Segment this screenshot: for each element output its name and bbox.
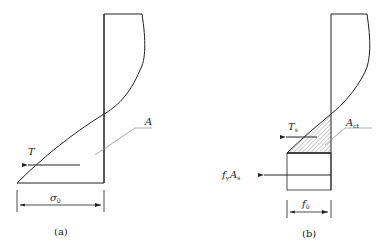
dim-arrowhead-right-b (322, 210, 328, 214)
as-symbol: A (229, 169, 237, 180)
stress-profile-a (17, 14, 145, 183)
tension-label-a: T (28, 146, 36, 157)
as-subscript: s (237, 174, 240, 181)
f0-subscript: 0 (306, 203, 310, 210)
area-leader-b (325, 128, 372, 145)
caption-b: (b) (302, 228, 316, 239)
act-symbol: A (345, 117, 353, 128)
area-label-a: A (144, 116, 152, 127)
sigma-subscript: 0 (57, 197, 61, 204)
dim-arrowhead-right-a (95, 203, 101, 207)
diagram-canvas: T A σ0 (a) Ts Act fyAs f0 (b) (0, 0, 384, 246)
steel-force-label-b: fyAs (221, 169, 240, 182)
figure-a (17, 14, 152, 212)
act-subscript: ct (353, 122, 359, 129)
tension-label-b: Ts (288, 121, 298, 133)
width-label-a: σ0 (50, 192, 61, 204)
area-label-b: Act (345, 117, 360, 129)
figure-b (264, 14, 372, 218)
width-label-b: f0 (301, 198, 310, 210)
caption-a: (a) (54, 226, 68, 237)
fy-subscript: y (225, 174, 230, 182)
ts-subscript: s (295, 126, 298, 133)
steel-block-b (287, 153, 331, 190)
